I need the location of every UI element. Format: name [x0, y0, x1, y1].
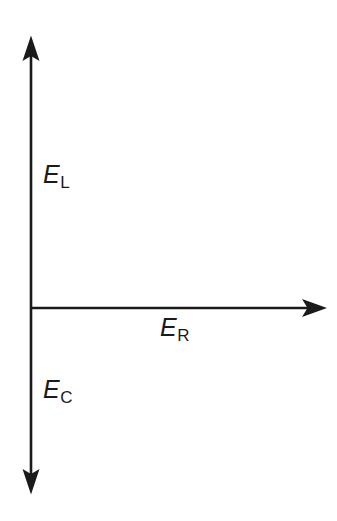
- label-ER-subscript: R: [177, 326, 189, 345]
- label-ER-symbol: E: [160, 313, 177, 341]
- label-capacitor-voltage: EC: [43, 377, 72, 402]
- label-inductor-voltage: EL: [43, 162, 69, 187]
- phasor-diagram: EL ER EC: [0, 0, 337, 521]
- label-EC-symbol: E: [43, 375, 60, 403]
- label-EL-subscript: L: [60, 173, 69, 192]
- label-resistor-voltage: ER: [160, 315, 189, 340]
- phasor-diagram-canvas: [0, 0, 337, 521]
- label-EL-symbol: E: [43, 160, 60, 188]
- label-EC-subscript: C: [60, 388, 72, 407]
